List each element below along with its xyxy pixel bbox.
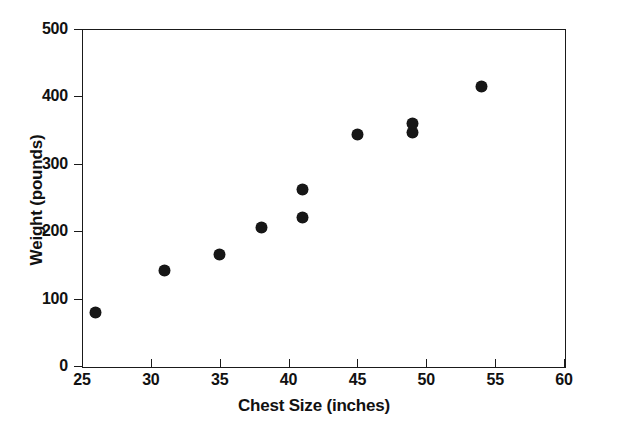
y-tick-label: 500 (8, 21, 68, 37)
x-tick-mark (82, 359, 83, 367)
x-tick-label: 40 (259, 372, 319, 388)
x-tick-mark (495, 359, 496, 367)
x-tick-label: 25 (52, 372, 112, 388)
y-axis-title: Weight (pounds) (27, 80, 47, 320)
x-tick-label: 50 (396, 372, 456, 388)
data-point (90, 307, 101, 318)
y-tick-mark (74, 299, 82, 300)
x-tick-mark (289, 359, 290, 367)
data-point (256, 222, 267, 233)
x-tick-mark (564, 359, 565, 367)
x-tick-label: 60 (534, 372, 594, 388)
x-tick-label: 35 (190, 372, 250, 388)
data-point (297, 184, 308, 195)
x-tick-label: 55 (465, 372, 525, 388)
x-tick-label: 30 (121, 372, 181, 388)
plot-area (82, 29, 566, 368)
y-tick-mark (74, 366, 82, 367)
data-point (407, 118, 418, 129)
data-point (297, 212, 308, 223)
x-tick-mark (151, 359, 152, 367)
y-tick-mark (74, 231, 82, 232)
x-tick-mark (357, 359, 358, 367)
y-tick-mark (74, 164, 82, 165)
x-tick-mark (426, 359, 427, 367)
data-point (159, 265, 170, 276)
x-tick-label: 45 (327, 372, 387, 388)
scatter-plot-figure: 01002003004005002530354045505560 Chest S… (0, 0, 628, 424)
y-tick-mark (74, 96, 82, 97)
x-tick-mark (220, 359, 221, 367)
y-tick-mark (74, 29, 82, 30)
x-axis-title: Chest Size (inches) (0, 396, 628, 416)
